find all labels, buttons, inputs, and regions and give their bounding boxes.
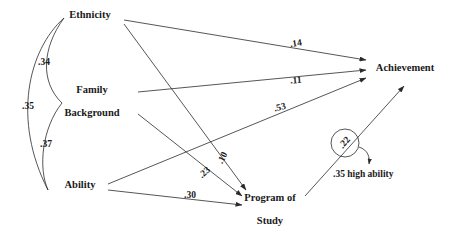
path-label-ethnicity-achievement: .14: [289, 37, 303, 49]
path-labels-group: .14 .11 .53 .10 .23 .30: [184, 37, 303, 200]
hook-arrow-icon: [359, 147, 369, 164]
node-label-ability: Ability: [65, 179, 97, 190]
correlation-label-ethnicity-ability: .35: [22, 101, 34, 111]
path-diagram-canvas: .34 .35 .37 .14 .11 .53 .10 .23 .30 .22: [0, 0, 450, 242]
annotation-label-circled-22: .22: [337, 135, 353, 151]
path-label-family-achievement: .11: [290, 75, 302, 86]
path-label-ethnicity-program: .10: [215, 150, 229, 165]
path-edge-ability-achievement: [108, 78, 366, 184]
correlation-label-ethnicity-family: .34: [38, 57, 50, 67]
node-label-ethnicity: Ethnicity: [69, 9, 111, 20]
node-label-family-line1: Family: [76, 84, 108, 95]
annotation-high-ability-note: .35 high ability: [333, 169, 394, 179]
correlation-arcs-group: .34 .35 .37: [22, 18, 64, 190]
path-edge-circled-22: [305, 86, 404, 196]
node-label-program-line2: Study: [257, 215, 284, 226]
path-edge-family-achievement: [138, 70, 366, 92]
circled-annotation-group: .22 .35 high ability: [331, 129, 394, 179]
node-label-family-line2: Background: [64, 107, 119, 118]
path-edge-ability-program: [108, 190, 242, 205]
node-labels-group: Ethnicity Family Background Ability Prog…: [64, 9, 434, 226]
path-label-ability-program: .30: [184, 190, 196, 200]
correlation-label-family-ability: .37: [40, 139, 52, 149]
path-edge-ethnicity-achievement: [124, 20, 366, 60]
path-edge-ethnicity-program: [124, 24, 246, 190]
node-label-achievement: Achievement: [376, 62, 435, 73]
path-label-family-program: .23: [197, 165, 213, 181]
node-label-program-line1: Program of: [244, 192, 296, 203]
